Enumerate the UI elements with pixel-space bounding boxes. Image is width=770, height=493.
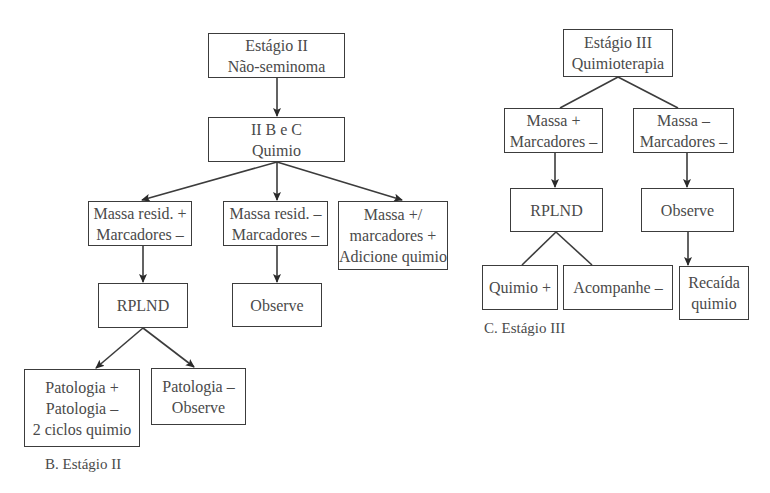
node-resid-mass-pos: Massa resid. + Marcadores – [88, 201, 192, 246]
caption-panel-c: C. Estágio III [484, 320, 565, 337]
node-text: Adicione quimio [339, 246, 447, 267]
node-pathology-pos: Patologia + Patologia – 2 ciclos quimio [24, 369, 140, 447]
node-text: Patologia – [162, 376, 234, 397]
edge-c-rplnd-to-chemo-pos [522, 232, 556, 265]
node-text: Marcadores – [640, 131, 728, 152]
node-text: Observe [661, 200, 714, 221]
node-chemo-pos: Quimio + [482, 265, 558, 310]
node-text: Massa + [527, 110, 581, 131]
node-stage2-root: Estágio II Não-seminoma [208, 33, 345, 78]
caption-panel-b: B. Estágio II [45, 456, 121, 473]
node-text: Quimio + [489, 277, 551, 298]
node-text: Observe [172, 397, 225, 418]
node-text: Massa resid. – [230, 203, 322, 224]
edge-rplnd-to-path-neg [143, 328, 194, 367]
node-text: Acompanhe – [573, 277, 662, 298]
node-resid-mass-neg: Massa resid. – Marcadores – [223, 201, 328, 246]
node-text: Patologia – [46, 398, 118, 419]
node-relapse-chemo: Recaída quimio [679, 266, 749, 320]
node-text: Massa +/ [364, 204, 422, 225]
node-text: Quimioterapia [572, 53, 664, 74]
node-stage2-observe: Observe [232, 283, 322, 327]
edge-c-rplnd-to-follow-neg [556, 232, 592, 265]
edge-rplnd-to-path-pos [96, 328, 143, 368]
node-mass-neg: Massa – Marcadores – [633, 108, 734, 153]
edge-chemo-to-markers-pos [277, 162, 402, 200]
edge-c-root-to-mass-pos [560, 77, 618, 108]
node-text: Marcadores – [232, 224, 320, 245]
edge-c-root-to-mass-neg [618, 77, 678, 108]
node-text: RPLND [530, 200, 582, 221]
node-pathology-neg: Patologia – Observe [151, 368, 246, 425]
node-text: Estágio III [584, 32, 652, 53]
node-text: Marcadores – [510, 131, 598, 152]
node-stage3-observe: Observe [641, 188, 734, 232]
flowchart-canvas: Estágio II Não-seminoma II B e C Quimio … [0, 0, 770, 493]
node-text: marcadores + [350, 225, 437, 246]
node-text: Observe [250, 295, 303, 316]
node-text: quimio [691, 293, 736, 314]
node-mass-pos: Massa + Marcadores – [504, 108, 603, 153]
node-text: Marcadores – [96, 224, 184, 245]
node-stage2-rplnd: RPLND [98, 283, 188, 328]
node-text: II B e C [251, 119, 302, 140]
node-markers-pos: Massa +/ marcadores + Adicione quimio [338, 201, 448, 270]
node-text: Não-seminoma [228, 56, 326, 77]
edge-chemo-to-resid-pos [142, 162, 277, 200]
node-follow-up-neg: Acompanhe – [563, 265, 673, 310]
node-stage2-chemo: II B e C Quimio [208, 117, 345, 162]
node-text: Quimio [252, 140, 301, 161]
node-text: Estágio II [245, 35, 308, 56]
node-text: Recaída [688, 272, 740, 293]
node-stage3-rplnd: RPLND [510, 188, 603, 232]
node-text: Patologia + [45, 377, 118, 398]
node-text: Massa – [657, 110, 710, 131]
node-text: 2 ciclos quimio [33, 419, 132, 440]
node-stage3-root: Estágio III Quimioterapia [563, 29, 673, 77]
node-text: RPLND [117, 295, 169, 316]
node-text: Massa resid. + [93, 203, 186, 224]
